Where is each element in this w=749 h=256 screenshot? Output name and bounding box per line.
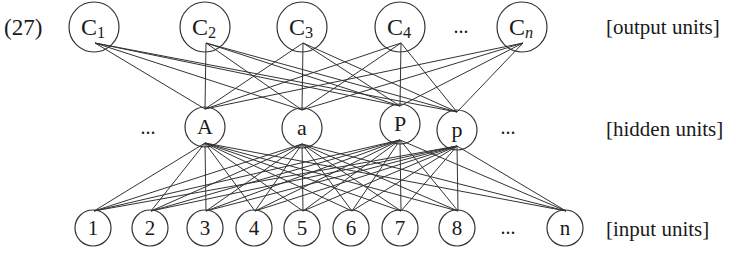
- edge-C2-p: [206, 43, 457, 112]
- hidden-ellipsis-left: ...: [141, 116, 156, 138]
- edge-p-5: [303, 146, 457, 211]
- hidden-ellipsis-right: ...: [501, 116, 516, 138]
- input-node-2: 2: [132, 210, 168, 246]
- input-node-3: 3: [187, 210, 223, 246]
- svg-text:4: 4: [249, 216, 260, 240]
- svg-text:C1: C1: [81, 14, 105, 42]
- svg-text:7: 7: [395, 216, 406, 240]
- hidden-units-label: [hidden units]: [606, 119, 723, 140]
- output-node-C3: C3: [277, 2, 327, 52]
- input-node-8: 8: [439, 210, 475, 246]
- svg-text:8: 8: [452, 216, 463, 240]
- svg-text:Cn: Cn: [509, 14, 533, 42]
- edge-p-2: [151, 146, 457, 211]
- example-number: (27): [4, 16, 42, 39]
- hidden-node-P: P: [380, 104, 420, 144]
- edge-P-6: [352, 140, 400, 211]
- network-nodes: C1C2C3C4CnAaPp12345678n............: [69, 2, 583, 246]
- svg-text:3: 3: [200, 216, 211, 240]
- svg-text:P: P: [394, 111, 406, 136]
- edge-p-8: [457, 146, 458, 211]
- output-ellipsis: ...: [454, 15, 469, 37]
- edge-A-8: [205, 143, 458, 211]
- input-node-7: 7: [382, 210, 418, 246]
- edge-A-3: [205, 143, 206, 211]
- svg-text:5: 5: [297, 216, 308, 240]
- edge-A-4: [205, 143, 255, 211]
- svg-text:p: p: [452, 117, 463, 142]
- output-node-C2: C2: [180, 2, 230, 52]
- hidden-node-p: p: [437, 110, 477, 150]
- svg-text:2: 2: [145, 216, 156, 240]
- input-node-6: 6: [333, 210, 369, 246]
- svg-text:C2: C2: [192, 14, 216, 42]
- edge-P-7: [400, 140, 401, 211]
- hidden-node-a: a: [282, 108, 322, 148]
- edge-C4-a: [302, 43, 401, 110]
- edge-P-2: [151, 140, 400, 211]
- connection-edges: [94, 43, 566, 211]
- input-node-5: 5: [284, 210, 320, 246]
- edge-C1-A: [95, 43, 205, 109]
- input-ellipsis: ...: [501, 216, 516, 238]
- input-node-1: 1: [75, 210, 111, 246]
- edge-C3-P: [303, 43, 400, 106]
- svg-text:A: A: [197, 114, 213, 139]
- svg-text:n: n: [560, 216, 571, 240]
- input-units-label: [input units]: [606, 219, 709, 240]
- output-node-C4: C4: [375, 2, 425, 52]
- svg-text:C4: C4: [387, 14, 411, 42]
- svg-text:C3: C3: [289, 14, 313, 42]
- svg-text:1: 1: [88, 216, 99, 240]
- edge-p-n: [457, 146, 566, 211]
- edge-a-5: [302, 144, 303, 211]
- hidden-node-A: A: [185, 107, 225, 147]
- input-node-4: 4: [236, 210, 272, 246]
- svg-text:6: 6: [346, 216, 357, 240]
- svg-text:a: a: [297, 115, 307, 140]
- output-units-label: [output units]: [606, 17, 720, 38]
- output-node-C1: C1: [69, 2, 119, 52]
- edge-C2-A: [205, 43, 206, 109]
- input-node-n: n: [547, 210, 583, 246]
